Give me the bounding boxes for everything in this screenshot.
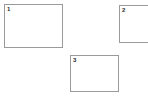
panel-3[interactable]: 3 <box>70 55 119 92</box>
panel-1[interactable]: 1 <box>4 4 63 48</box>
panel-2[interactable]: 2 <box>119 5 148 43</box>
diagram-canvas: 1 2 3 <box>0 0 148 99</box>
panel-2-label: 2 <box>122 7 125 14</box>
panel-3-label: 3 <box>73 57 76 64</box>
panel-1-label: 1 <box>7 6 10 13</box>
